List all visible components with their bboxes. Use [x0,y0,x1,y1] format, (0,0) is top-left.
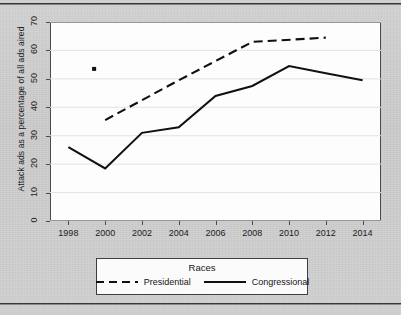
x-tick-label: 2008 [232,228,272,238]
legend-label: Congressional [252,277,310,287]
x-tick-mark [289,221,290,225]
x-tick-label: 2002 [122,228,162,238]
gridlines [50,22,381,221]
marker-layer [92,67,96,71]
y-tick-label: 0 [29,210,39,230]
y-tick-label: 10 [29,182,39,202]
presidential-1999-point [92,67,96,71]
x-tick-label: 2006 [196,228,236,238]
legend-entry-congressional: Congressional [203,277,310,287]
y-tick-mark [46,136,50,137]
legend-swatch-dashed [95,278,139,286]
bottom-horizontal-rule-shadow [0,304,401,305]
x-tick-label: 2012 [306,228,346,238]
y-tick-mark [46,50,50,51]
plot-canvas [50,22,381,221]
y-tick-label: 40 [29,96,39,116]
x-tick-mark [68,221,69,225]
y-tick-mark [46,79,50,80]
x-tick-label: 2004 [159,228,199,238]
x-tick-mark [179,221,180,225]
x-tick-mark [105,221,106,225]
y-tick-label: 70 [29,11,39,31]
y-tick-label: 20 [29,153,39,173]
legend-title: Races [97,262,307,273]
x-tick-label: 2010 [269,228,309,238]
x-tick-label: 2014 [343,228,383,238]
y-tick-label: 60 [29,39,39,59]
x-tick-label: 1998 [48,228,88,238]
x-tick-mark [252,221,253,225]
y-tick-mark [46,22,50,23]
legend-entries: PresidentialCongressional [97,277,307,287]
x-tick-label: 2000 [85,228,125,238]
legend-swatch-solid [203,278,247,286]
x-tick-mark [363,221,364,225]
y-tick-mark [46,193,50,194]
y-tick-label: 30 [29,125,39,145]
y-axis-title: Attack ads as a percentage of all ads ai… [16,4,26,214]
y-tick-mark [46,107,50,108]
legend-label: Presidential [144,277,191,287]
x-tick-mark [216,221,217,225]
legend-box: Races PresidentialCongressional [96,258,308,295]
top-horizontal-rule-shadow [0,4,401,5]
line-chart: Attack ads as a percentage of all ads ai… [0,8,401,253]
y-tick-mark [46,164,50,165]
y-tick-label: 50 [29,68,39,88]
y-tick-mark [46,221,50,222]
x-tick-mark [326,221,327,225]
series-layer [68,38,362,169]
x-tick-mark [142,221,143,225]
legend-entry-presidential: Presidential [95,277,191,287]
